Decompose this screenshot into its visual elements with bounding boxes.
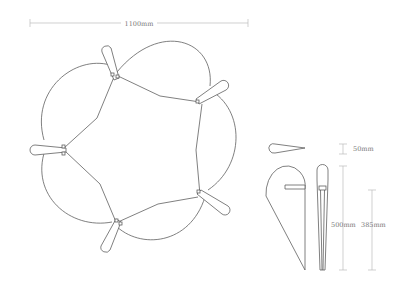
leaf-top <box>102 46 119 80</box>
overall-width-dimension: 1100mm <box>30 19 248 28</box>
leaf-right-upper <box>196 80 229 104</box>
leaf-left <box>30 145 66 155</box>
overall-width-label: 1100mm <box>125 20 154 28</box>
leaf-width-dimension: 50mm <box>339 144 374 154</box>
leaf-height-dimension: 500mm <box>331 166 356 270</box>
slot-height-dimension: 385mm <box>361 190 386 270</box>
leaf-side-view <box>266 166 305 270</box>
slot-height-label: 385mm <box>361 221 386 229</box>
leaf-bottom <box>101 219 122 252</box>
leaf-right-lower <box>197 190 230 215</box>
leaf-top-view <box>269 144 305 153</box>
technical-drawing: 1100mm <box>0 0 402 290</box>
leaf-width-label: 50mm <box>353 145 374 153</box>
leaf-front-view <box>317 165 328 271</box>
assembly-top-view <box>30 41 236 252</box>
leaf-height-label: 500mm <box>331 221 356 229</box>
